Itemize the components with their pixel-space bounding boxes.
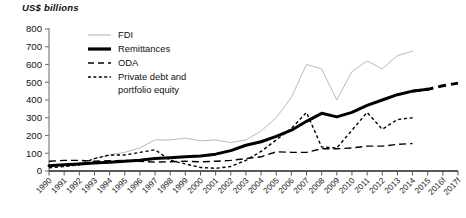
legend-label: ODA: [118, 57, 139, 68]
legend-label: Remittances: [118, 43, 170, 54]
svg-text:2004: 2004: [246, 176, 266, 196]
svg-text:1990: 1990: [34, 176, 54, 196]
svg-text:2011: 2011: [353, 176, 372, 195]
svg-text:800: 800: [26, 23, 42, 34]
svg-text:2014: 2014: [398, 176, 418, 196]
svg-text:2006: 2006: [277, 176, 297, 196]
y-axis: 0100200300400500600700800: [26, 23, 49, 176]
series-line: [413, 83, 458, 91]
svg-text:2010: 2010: [337, 176, 357, 196]
svg-text:2001: 2001: [201, 176, 221, 196]
svg-text:400: 400: [26, 94, 42, 105]
series-line: [49, 89, 428, 165]
svg-text:2000: 2000: [186, 176, 206, 196]
svg-text:600: 600: [26, 59, 42, 70]
series-layer: [49, 51, 458, 168]
line-chart: 0100200300400500600700800 19901991199219…: [0, 0, 466, 218]
svg-text:2008: 2008: [307, 176, 327, 196]
chart-root: US$ billions 0100200300400500600700800 1…: [0, 0, 466, 218]
svg-text:100: 100: [26, 148, 42, 159]
legend-label: Private debt and: [118, 71, 186, 82]
svg-text:2002: 2002: [216, 176, 236, 196]
svg-text:1991: 1991: [50, 176, 70, 196]
svg-text:2012: 2012: [368, 176, 388, 196]
svg-text:700: 700: [26, 41, 42, 52]
svg-text:2005: 2005: [262, 176, 282, 196]
svg-text:1996: 1996: [125, 176, 145, 196]
svg-text:2007: 2007: [292, 176, 312, 196]
svg-text:2009: 2009: [322, 176, 342, 196]
svg-text:1994: 1994: [95, 176, 115, 196]
svg-text:2003: 2003: [231, 176, 251, 196]
svg-text:300: 300: [26, 112, 42, 123]
svg-text:500: 500: [26, 77, 42, 88]
svg-text:2017f: 2017f: [442, 176, 463, 197]
chart-legend: FDIRemittancesODAPrivate debt andportfol…: [88, 29, 186, 95]
svg-text:200: 200: [26, 130, 42, 141]
series-line: [49, 143, 413, 162]
legend-label-cont: portfolio equity: [118, 84, 179, 95]
svg-text:1999: 1999: [171, 176, 191, 196]
svg-text:1992: 1992: [65, 176, 85, 196]
x-axis: 1990199119921993199419951996199719981999…: [34, 171, 463, 197]
svg-text:1997: 1997: [140, 176, 160, 196]
svg-text:1995: 1995: [110, 176, 130, 196]
svg-text:1998: 1998: [156, 176, 176, 196]
legend-label: FDI: [118, 29, 133, 40]
svg-text:0: 0: [37, 165, 42, 176]
svg-text:1993: 1993: [80, 176, 100, 196]
svg-text:2013: 2013: [383, 176, 403, 196]
